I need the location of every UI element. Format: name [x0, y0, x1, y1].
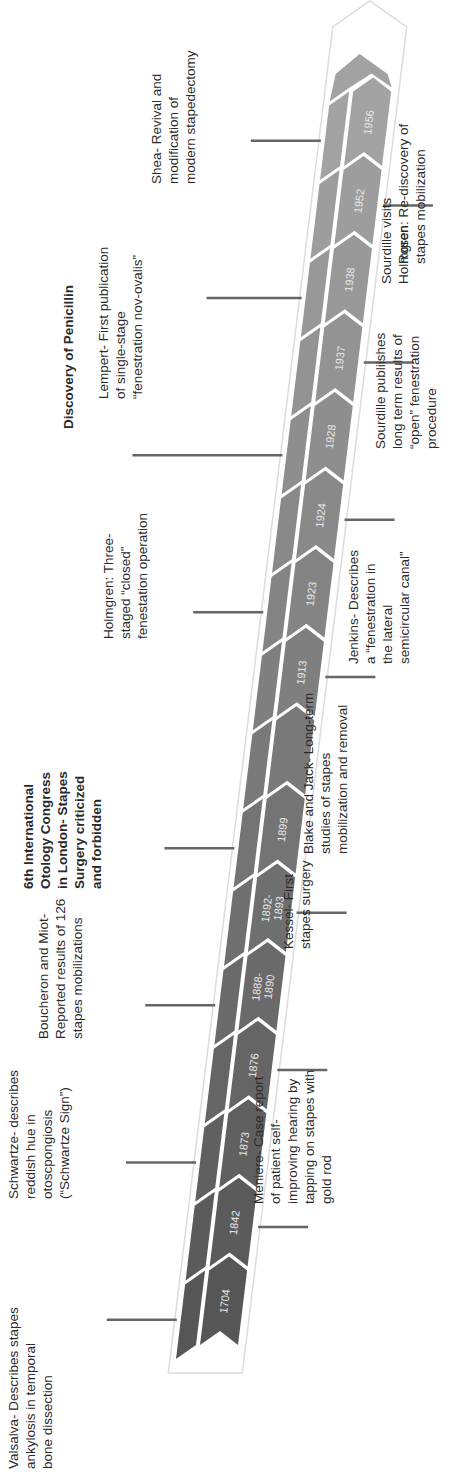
timeline-diagram: 17041842187318761888-18901892-1893189919… — [0, 0, 467, 1479]
event-label-otology-congress: 6th International Otology Congress in Lo… — [20, 771, 105, 889]
event-label-meniere: Meniere- Case report of patient self- im… — [250, 1070, 335, 1204]
event-label-shea: Shea- Revival and modification of modern… — [148, 50, 199, 184]
event-label-blake-jack: Blake and Jack- Long-term studies of sta… — [300, 693, 351, 854]
event-label-schwartze: Schwartze- describes reddish hue in otos… — [5, 1070, 73, 1199]
event-label-lempert: Lempert- First publication of single-sta… — [95, 247, 146, 399]
event-label-kessel: Kessel- First stapes surgery — [280, 860, 314, 949]
event-label-jenkins: Jenkins- Describes a “fenestration in th… — [345, 550, 413, 664]
event-label-sourdille-publishes: Sourdille publiishes long term results o… — [372, 333, 440, 449]
event-label-rosen: Rosen: Re-discovery of stapes mobilizati… — [395, 124, 429, 264]
event-label-boucheron-miot: Boucheron and Miot- Reported results of … — [35, 899, 86, 1039]
event-label-valsalva: Valsalva- Describes stapes ankylosis in … — [5, 1307, 56, 1469]
event-label-penicillin: Discovery of Penicillin — [60, 285, 77, 429]
event-label-holmgren: Holmgren: Three- staged “closed” fenesta… — [100, 513, 151, 639]
